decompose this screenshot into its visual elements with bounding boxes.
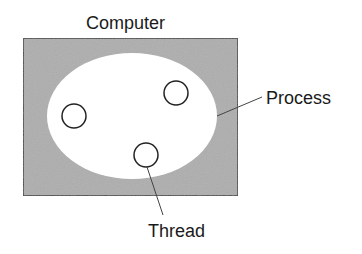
thread-circle-bottom	[134, 143, 158, 167]
thread-circle-left	[62, 104, 86, 128]
process-label: Process	[266, 88, 331, 108]
thread-circle-upper-right	[164, 81, 188, 105]
computer-process-thread-diagram: Computer Process Thread	[0, 0, 362, 254]
thread-label: Thread	[148, 221, 205, 241]
computer-label: Computer	[86, 13, 165, 33]
